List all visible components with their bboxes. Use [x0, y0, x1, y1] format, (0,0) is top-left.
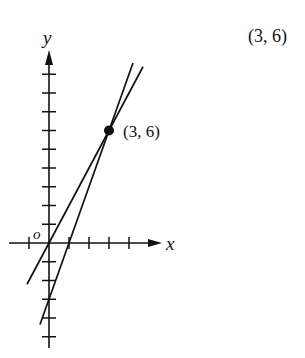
lines	[27, 63, 143, 325]
graph-figure: y x o (3, 6) (3, 6)	[0, 0, 305, 358]
coordinate-plane: y x o (3, 6)	[0, 0, 305, 358]
corner-point-label: (3, 6)	[248, 26, 287, 47]
line-y-equals-2x	[27, 67, 143, 285]
point-label: (3, 6)	[123, 122, 160, 141]
intersection-point-dot	[104, 126, 114, 136]
y-axis-arrow-icon	[45, 50, 53, 65]
x-axis-arrow-icon	[148, 239, 162, 247]
points	[104, 126, 114, 136]
x-axis-label: x	[165, 233, 175, 254]
y-axis-label: y	[41, 27, 52, 48]
origin-label: o	[33, 226, 41, 242]
line-y-equals-3x-minus-3	[40, 63, 133, 325]
